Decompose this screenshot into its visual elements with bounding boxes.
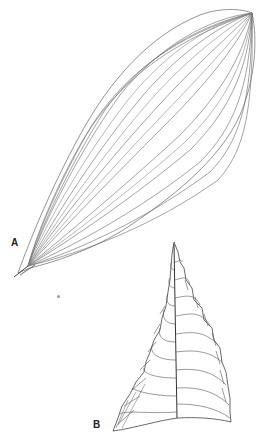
botanical-figure: A B [0,0,258,442]
speck-mark [57,295,60,298]
leaf-a-drawing [14,9,255,277]
panel-label-a: A [11,237,18,248]
leaf-b-drawing [113,242,231,431]
leaf-illustrations [0,0,258,442]
panel-label-b: B [93,419,100,430]
